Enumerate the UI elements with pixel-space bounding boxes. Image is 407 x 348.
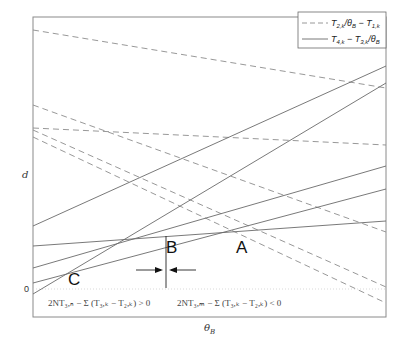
dashed-line-5: [33, 137, 386, 303]
x-axis-label-sub: B: [209, 328, 215, 336]
point-c-label: C: [68, 270, 80, 289]
dashed-line-2: [33, 105, 386, 232]
region-left-condition: 2NT₃,ₙ − Σ (T₃,ₖ − T₂,ₖ) > 0: [48, 298, 151, 308]
region-right-condition: 2NT₃,ₘ − Σ (T₃,ₖ − T₂,ₖ) < 0: [177, 298, 282, 308]
chart: A B C 2NT₃,ₙ − Σ (T₃,ₖ − T₂,ₖ) > 0 2NT₃,…: [0, 0, 407, 348]
legend: T2,k/θB − T1,k T4,k − T3,k/θB: [298, 12, 386, 48]
solid-line-2: [33, 83, 386, 294]
y-axis-label: d: [22, 169, 28, 180]
solid-line-3: [33, 166, 386, 268]
plot-frame: [33, 17, 386, 317]
point-a-label: A: [236, 238, 248, 257]
dashed-line-4: [33, 130, 386, 287]
x-axis-label: θ B: [204, 322, 215, 336]
y-tick-zero: 0: [24, 284, 29, 294]
solid-line-4: [33, 189, 386, 283]
point-b-label: B: [166, 238, 177, 257]
solid-series-group: [33, 66, 386, 294]
solid-line-1: [33, 66, 386, 226]
dashed-line-3: [33, 128, 386, 145]
solid-line-5: [33, 221, 386, 246]
